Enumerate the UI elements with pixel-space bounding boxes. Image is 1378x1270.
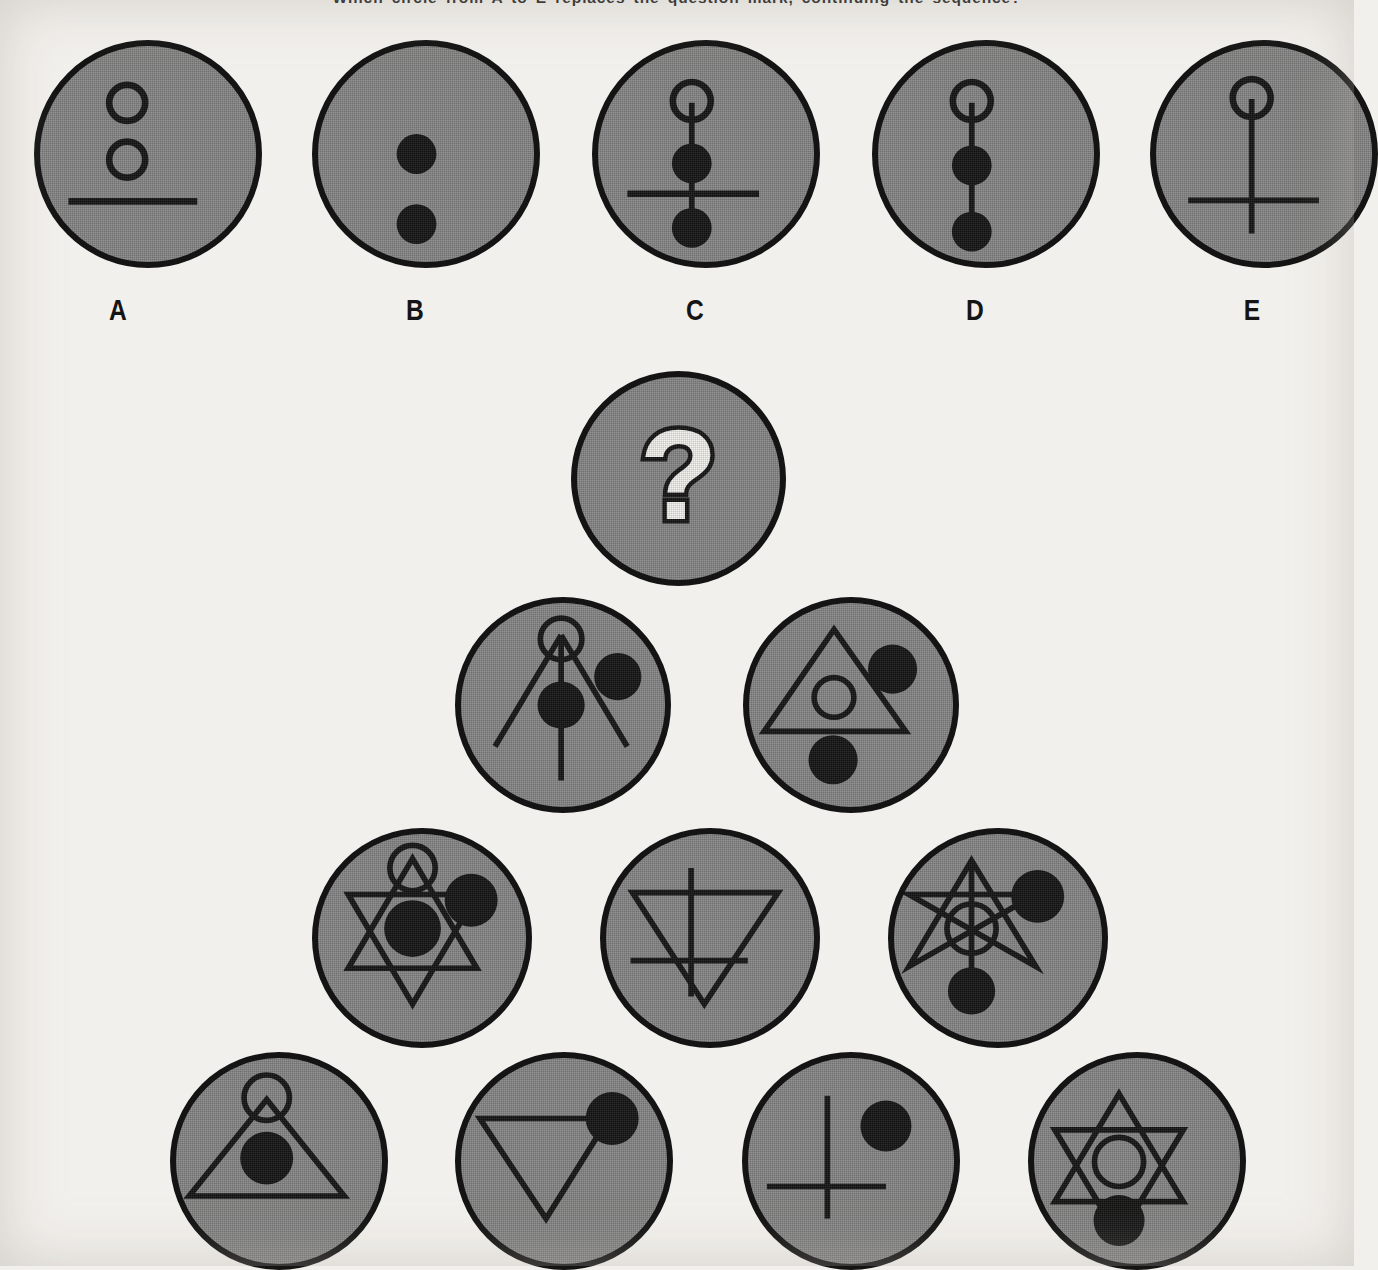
pyramid-r4-c2-circle[interactable] <box>455 1052 673 1270</box>
filled-dot-upper-right <box>868 645 917 694</box>
question-mark-circle[interactable]: ? <box>571 371 786 586</box>
filled-dot-bottom <box>948 967 995 1014</box>
filled-dot-centre <box>240 1132 293 1185</box>
filled-dot-upper-right <box>860 1101 911 1152</box>
pyramid-r3-c1-circle[interactable] <box>312 828 532 1048</box>
option-c-circle[interactable] <box>592 40 820 268</box>
filled-dot-upper <box>952 145 992 185</box>
option-c-letter: C <box>670 293 719 327</box>
filled-dot-lower <box>672 208 712 248</box>
pyramid-r3-c2-circle[interactable] <box>600 828 820 1048</box>
option-e-letter: E <box>1227 293 1276 327</box>
option-b-letter: B <box>390 293 439 327</box>
filled-dot-lower <box>397 204 437 244</box>
option-b-circle[interactable] <box>312 40 540 268</box>
filled-dot-lower <box>952 212 992 252</box>
question-mark-glyph: ? <box>577 377 780 580</box>
puzzle-prompt: Which circle from A to E replaces the qu… <box>0 0 1354 7</box>
option-d-circle[interactable] <box>872 40 1100 268</box>
hollow-circle-upper <box>109 85 145 121</box>
pyramid-r4-c3-circle[interactable] <box>742 1052 960 1270</box>
option-a-letter: A <box>93 293 142 327</box>
pyramid-r3-c3-circle[interactable] <box>888 828 1108 1048</box>
option-d-letter: D <box>950 293 999 327</box>
filled-dot-upper-right <box>594 653 641 700</box>
hollow-circle-centre <box>814 678 854 718</box>
filled-dot-upper-right <box>586 1092 639 1145</box>
pyramid-r2-c1-circle[interactable] <box>455 597 671 813</box>
option-a-circle[interactable] <box>34 40 262 268</box>
filled-dot-upper <box>672 144 712 184</box>
filled-dot-upper-right <box>445 874 498 927</box>
filled-dot-lower-left <box>809 735 858 784</box>
triangle-down <box>632 893 778 1005</box>
filled-dot-centre <box>384 900 441 957</box>
hollow-circle-centre <box>1094 1137 1143 1186</box>
option-e-circle[interactable] <box>1150 40 1378 268</box>
pyramid-r2-c2-circle[interactable] <box>743 597 959 813</box>
filled-dot-upper-right <box>1011 870 1064 923</box>
hollow-circle-lower <box>109 142 145 178</box>
hollow-circle-apex <box>390 845 435 890</box>
filled-dot-bottom <box>1094 1195 1145 1246</box>
filled-dot-centre <box>538 681 585 728</box>
triangle-down <box>480 1118 609 1218</box>
filled-dot-upper <box>397 134 437 174</box>
pyramid-r4-c1-circle[interactable] <box>170 1052 388 1270</box>
pyramid-r4-c4-circle[interactable] <box>1028 1052 1246 1270</box>
